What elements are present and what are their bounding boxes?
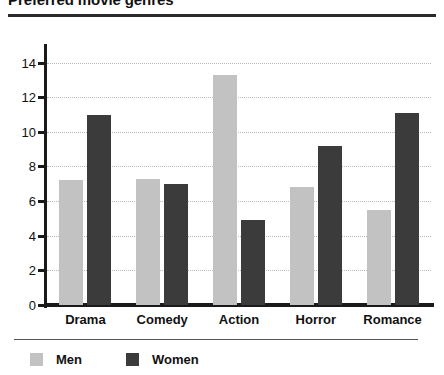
chart-figure: Preferred movie genres 02468101214 MenWo…	[0, 0, 444, 375]
legend-item-women[interactable]: Women	[126, 352, 199, 367]
bar-comedy-women	[164, 184, 188, 305]
x-axis-label-drama: Drama	[47, 312, 124, 327]
legend-swatch-men	[30, 353, 43, 366]
y-axis-tick-mark	[38, 235, 47, 238]
y-axis-tick-label: 0	[6, 298, 36, 313]
y-axis-tick-mark	[38, 96, 47, 99]
y-axis-tick-mark	[38, 200, 47, 203]
y-axis-tick-labels: 02468101214	[0, 0, 36, 375]
legend-divider	[14, 339, 418, 340]
legend-label-women: Women	[152, 352, 199, 367]
y-axis-tick-label: 8	[6, 159, 36, 174]
bar-action-men	[213, 75, 237, 305]
y-axis-tick-mark	[38, 269, 47, 272]
y-axis-tick-label: 12	[6, 90, 36, 105]
x-axis-label-comedy: Comedy	[124, 312, 201, 327]
y-axis-tick-mark	[38, 304, 47, 307]
y-axis-tick-label: 10	[6, 124, 36, 139]
y-axis-tick-mark	[38, 165, 47, 168]
bar-comedy-men	[136, 179, 160, 305]
bar-horror-men	[290, 187, 314, 305]
legend-item-men[interactable]: Men	[30, 352, 82, 367]
bar-action-women	[241, 220, 265, 305]
chart-legend: MenWomen	[30, 352, 243, 367]
y-axis-tick-label: 4	[6, 228, 36, 243]
x-axis-label-romance: Romance	[354, 312, 431, 327]
y-axis-tick-label: 14	[6, 55, 36, 70]
legend-label-men: Men	[56, 352, 82, 367]
x-axis-label-action: Action	[201, 312, 278, 327]
gridline	[47, 63, 431, 64]
y-axis-tick-label: 2	[6, 263, 36, 278]
y-axis-tick-label: 6	[6, 194, 36, 209]
bar-drama-men	[59, 180, 83, 305]
gridline	[47, 97, 431, 98]
bar-romance-men	[367, 210, 391, 305]
bar-drama-women	[87, 115, 111, 305]
bar-romance-women	[395, 113, 419, 305]
y-axis-tick-mark	[38, 62, 47, 65]
x-axis-label-horror: Horror	[277, 312, 354, 327]
y-axis-tick-mark	[38, 131, 47, 134]
bar-horror-women	[318, 146, 342, 305]
title-divider	[8, 14, 436, 17]
legend-swatch-women	[126, 353, 139, 366]
plot-area	[47, 47, 431, 305]
